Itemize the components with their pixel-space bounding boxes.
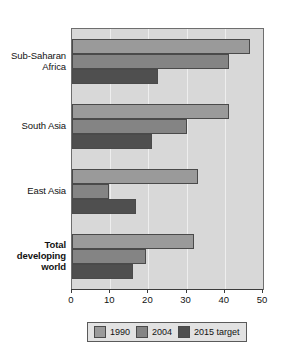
x-tick-10 [109, 289, 110, 293]
plot-area [71, 28, 264, 290]
chart-legend: 199020042015 target [87, 322, 247, 342]
bar-2004-1 [72, 119, 187, 134]
x-tick-40 [224, 289, 225, 293]
bar-chart: Sub-SaharanAfricaSouth AsiaEast AsiaTota… [0, 0, 282, 358]
legend-item-2: 2015 target [178, 326, 240, 338]
bar-1990-1 [72, 104, 229, 119]
legend-swatch-icon-0 [94, 326, 106, 338]
category-label-3: Totaldevelopingworld [0, 239, 66, 272]
bar-1990-0 [72, 39, 250, 54]
x-axis-line [71, 289, 262, 290]
bar-2015-target-2 [72, 199, 136, 214]
category-label-0: Sub-SaharanAfrica [0, 50, 66, 72]
legend-item-1: 2004 [136, 326, 172, 338]
x-tick-20 [147, 289, 148, 293]
legend-swatch-icon-2 [178, 326, 190, 338]
x-tick-label-50: 50 [250, 294, 274, 305]
x-axis: 01020304050 [71, 289, 262, 311]
x-tick-label-0: 0 [59, 294, 83, 305]
x-tick-label-40: 40 [212, 294, 236, 305]
x-tick-30 [186, 289, 187, 293]
category-label-1: South Asia [0, 120, 66, 131]
legend-swatch-icon-1 [136, 326, 148, 338]
legend-item-0: 1990 [94, 326, 130, 338]
legend-label-2: 2015 target [194, 327, 240, 337]
x-tick-label-10: 10 [97, 294, 121, 305]
category-axis: Sub-SaharanAfricaSouth AsiaEast AsiaTota… [0, 28, 66, 288]
x-tick-label-20: 20 [135, 294, 159, 305]
x-tick-label-30: 30 [174, 294, 198, 305]
legend-label-0: 1990 [110, 327, 130, 337]
x-tick-50 [262, 289, 263, 293]
bar-2004-3 [72, 249, 146, 264]
category-label-2: East Asia [0, 185, 66, 196]
bar-2015-target-0 [72, 69, 158, 84]
legend-label-1: 2004 [152, 327, 172, 337]
bar-1990-3 [72, 234, 194, 249]
x-tick-0 [71, 289, 72, 293]
bar-2004-2 [72, 184, 109, 199]
bar-2015-target-3 [72, 264, 133, 279]
bar-2015-target-1 [72, 134, 152, 149]
bar-1990-2 [72, 169, 198, 184]
bar-2004-0 [72, 54, 229, 69]
